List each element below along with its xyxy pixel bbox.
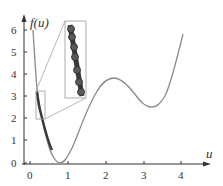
inset-zoom bbox=[65, 21, 86, 98]
y-axis-title: f(u) bbox=[30, 15, 49, 30]
y-tick-6: 6 bbox=[11, 24, 17, 36]
y-tick-2: 2 bbox=[11, 112, 17, 124]
y-tick-5: 5 bbox=[11, 46, 17, 58]
y-tick-0: 0 bbox=[11, 157, 17, 169]
y-axis-arrow-icon bbox=[22, 14, 27, 22]
inset-connector-bottom bbox=[45, 98, 86, 119]
x-tick-4: 4 bbox=[178, 169, 184, 181]
x-axis-arrow-icon bbox=[203, 162, 211, 167]
x-axis-title: u bbox=[206, 146, 213, 161]
sample-point-icon bbox=[78, 89, 85, 96]
chart: 0 1 2 3 4 5 6 0 1 2 3 4 f(u) u bbox=[0, 0, 223, 186]
highlighted-segment bbox=[37, 92, 52, 150]
sample-point-icon bbox=[71, 44, 78, 51]
x-tick-labels: 0 1 2 3 4 bbox=[27, 169, 184, 181]
y-axis bbox=[22, 14, 27, 165]
sample-point-icon bbox=[68, 26, 75, 33]
y-tick-3: 3 bbox=[11, 90, 17, 102]
x-tick-3: 3 bbox=[141, 169, 147, 181]
x-tick-1: 1 bbox=[65, 169, 71, 181]
x-axis bbox=[22, 162, 211, 167]
sample-point-icon bbox=[72, 54, 79, 61]
x-tick-0: 0 bbox=[27, 169, 33, 181]
inset-connector-top bbox=[36, 21, 65, 91]
y-tick-1: 1 bbox=[11, 134, 17, 146]
sample-point-icon bbox=[69, 34, 76, 41]
sample-point-icon bbox=[74, 67, 81, 74]
y-tick-labels: 0 1 2 3 4 5 6 bbox=[11, 24, 17, 169]
function-curve bbox=[33, 30, 183, 163]
y-tick-4: 4 bbox=[11, 68, 17, 80]
x-tick-2: 2 bbox=[103, 169, 109, 181]
sample-point-icon bbox=[76, 79, 83, 86]
